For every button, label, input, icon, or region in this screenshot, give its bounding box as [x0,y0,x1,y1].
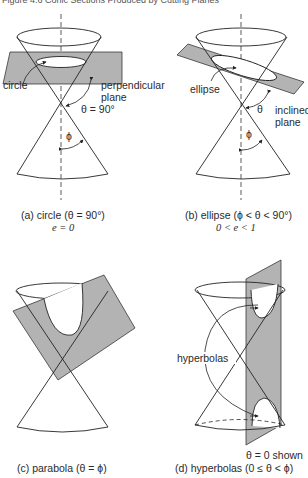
label-phi: ϕ [246,128,252,140]
label-theta-0-shown: θ = 0 shown [246,449,303,461]
bottom-cone-rim [196,174,290,179]
label-circle: circle [3,79,28,91]
panel-c-parabola: (c) parabola (θ = ϕ) [13,275,135,474]
label-ellipse: ellipse [190,83,220,95]
label-theta: θ [257,103,263,115]
label-hyperbolas: hyperbolas [177,352,228,364]
caption-d: (d) hyperbolas (0 ≤ θ < ϕ) [175,462,293,474]
bottom-cone-rim [17,427,108,432]
panel-b-ellipse: ellipse θ inclined plane ϕ (b) ellipse (… [177,14,308,233]
caption-b-line1: (b) ellipse (ϕ < θ < 90°) [185,209,292,221]
top-cone-rim [17,28,101,46]
label-perpendicular: perpendicular [101,79,165,91]
caption-a-line1: (a) circle (θ = 90°) [21,209,105,221]
conic-sections-figure: circle perpendicular plane θ = 90° ϕ (a)… [0,0,308,478]
label-plane: plane [101,91,127,103]
label-theta-90: θ = 90° [81,103,115,115]
panel-a-circle: circle perpendicular plane θ = 90° ϕ (a)… [3,14,165,233]
bottom-cone-rim [17,174,108,179]
circle-section [36,57,86,68]
label-plane: plane [275,116,301,128]
caption-b-line2: 0 < e < 1 [216,222,256,233]
caption-c: (c) parabola (θ = ϕ) [17,462,107,474]
panel-d-hyperbolas: hyperbolas θ = 0 shown (d) hyperbolas (0… [175,260,303,474]
label-phi: ϕ [66,130,72,142]
label-inclined: inclined [275,104,308,116]
caption-a-line2: e = 0 [52,222,75,233]
